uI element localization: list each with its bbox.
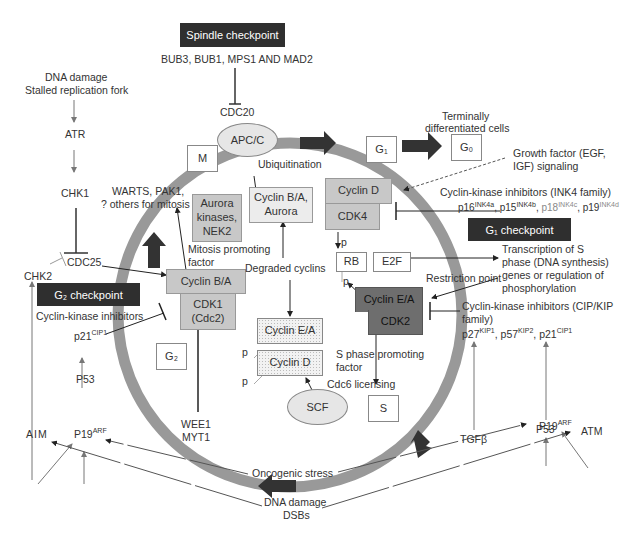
bub-label: BUB3, BUB1, MPS1 AND MAD2: [161, 53, 313, 66]
g1-to-g0-arrow: [402, 132, 442, 160]
cki-left-label: Cyclin-kinase inhibitors: [36, 310, 143, 323]
tgfb-label: TGFβ: [460, 433, 487, 446]
degraded-cyclin-d-box: Cyclin D: [257, 350, 323, 376]
phase-g2: G₂: [156, 343, 187, 370]
rb-box: RB: [336, 252, 367, 272]
p-label-rb: p: [343, 275, 349, 288]
cdk4-box: CDK4: [325, 203, 380, 230]
mpf-label-1: Mitosis promoting: [188, 243, 270, 256]
stalled-fork-label: Stalled replication fork: [25, 84, 128, 97]
chk2-label: CHK2: [24, 270, 52, 283]
warts-others-label: ? others for mitosis: [101, 198, 190, 211]
cdc6-licensing-label: Cdc6 licensing: [327, 378, 395, 391]
ink4-list: p16INK4a, p15INK4b, p18INK4c, p19INK4d: [458, 201, 619, 214]
transcription-label-4: phosphorylation: [502, 282, 576, 295]
transcription-label-1: Transcription of S: [502, 243, 584, 256]
spf-label-2: factor: [336, 361, 362, 374]
phase-g1: G₁: [366, 136, 397, 163]
cip-list: p27KIP1, p57KIP2, p21CIP1: [462, 327, 572, 340]
ring-arrow-left: [142, 232, 166, 268]
cyclin-ba-box: Cyclin B/A: [166, 269, 246, 294]
atm-label: ATM: [581, 425, 602, 438]
cdc20-label: CDC20: [220, 106, 254, 119]
p-label-cyclin-d: p: [242, 375, 248, 388]
cip-title-2: family): [462, 313, 493, 326]
differentiated-cells-label: differentiated cells: [425, 122, 509, 135]
phase-s: S: [368, 395, 399, 422]
dna-damage-label: DNA damage: [45, 71, 107, 84]
cyclin-ea-box: Cyclin E/A: [355, 287, 423, 312]
dna-damage-bottom-label: DNA damage: [264, 496, 326, 509]
transcription-label-3: genes or regulation of: [502, 269, 604, 282]
terminally-label: Terminally: [442, 110, 489, 123]
warts-label: WARTS, PAK1,: [112, 185, 184, 198]
wee1-label: WEE1: [181, 418, 211, 431]
aim-label: AIM: [26, 428, 48, 441]
spindle-checkpoint-label: Spindle checkpoint: [180, 23, 285, 47]
g1-checkpoint-label: G₁ checkpoint: [468, 218, 571, 241]
p19-left-label: P19ARF: [74, 427, 107, 440]
g2-checkpoint-label: G₂ checkpoint: [37, 283, 140, 306]
cyclin-d-box: Cyclin D: [325, 178, 392, 204]
p-label-cyclin-ea: p: [242, 346, 248, 359]
ubiquitination-label: Ubiquitination: [258, 158, 322, 171]
phase-m: M: [187, 145, 218, 172]
p-label-cdk4: p: [341, 236, 347, 249]
myt1-label: MYT1: [182, 431, 210, 444]
e2f-box: E2F: [373, 252, 411, 272]
scf-complex: SCF: [287, 389, 348, 425]
growth-factor-label-2: IGF) signaling: [513, 160, 578, 173]
p21-left-label: p21CIP1: [74, 329, 107, 342]
growth-factor-label-1: Growth factor (EGF,: [513, 147, 606, 160]
degraded-cyclin-ea-box: Cyclin E/A: [257, 318, 323, 344]
atr-label: ATR: [65, 128, 85, 141]
oncogenic-stress-label: Oncogenic stress: [252, 467, 333, 480]
transcription-label-2: phase (DNA synthesis): [502, 256, 609, 269]
p19-label-right: P19ARF: [539, 419, 572, 432]
cip-title-1: Cyclin-kinase inhibitors (CIP/KIP: [462, 300, 613, 313]
cdk2-box: CDK2: [368, 310, 423, 335]
phase-g0: G₀: [451, 134, 482, 161]
degraded-cyclins-label: Degraded cyclins: [245, 262, 326, 275]
dsbs-label: DSBs: [283, 509, 310, 522]
ink4-title: Cyclin-kinase inhibitors (INK4 family): [440, 186, 611, 199]
restriction-point-label: Restriction point: [426, 272, 501, 285]
chk1-label: CHK1: [61, 187, 89, 200]
mpf-label-2: factor: [188, 256, 214, 269]
spf-label-1: S phase promoting: [336, 348, 424, 361]
cyclin-ba-aurora-box: Cyclin B/A, Aurora: [249, 187, 313, 223]
apc-c-complex: APC/C: [217, 123, 278, 157]
p53-left-label: P53: [76, 373, 95, 386]
cdc25-label: CDC25: [67, 256, 101, 269]
cdk1-box: CDK1 (Cdc2): [180, 293, 236, 330]
aurora-nek2-box: Aurora kinases, NEK2: [192, 194, 242, 242]
